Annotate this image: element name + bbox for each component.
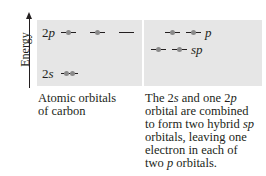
left-caption: Atomic orbitals of carbon	[38, 92, 116, 118]
electron-icon	[170, 30, 175, 35]
electron-icon	[66, 30, 71, 35]
electron-icon	[191, 30, 196, 35]
orbital-p-2	[186, 32, 201, 33]
orbital-p-1	[165, 32, 180, 33]
orbital-2s	[61, 73, 78, 74]
electron-icon	[64, 71, 69, 76]
electron-icon	[177, 47, 182, 52]
orbital-2p-1	[61, 32, 76, 33]
orbital-2p-3	[119, 32, 134, 33]
caption-text: two	[145, 156, 167, 170]
orbital-2p-2	[90, 32, 105, 33]
caption-text: to form two hybrid	[145, 117, 243, 131]
energy-axis-label: Energy	[18, 28, 33, 72]
caption-text: The 2	[145, 91, 174, 105]
hybrid-orbitals-panel: p sp	[144, 20, 262, 86]
caption-line: two p orbitals.	[145, 157, 254, 170]
caption-italic: p	[230, 91, 236, 105]
level-label-sp: sp	[191, 43, 203, 56]
atomic-orbitals-panel: 2p 2s	[37, 20, 142, 86]
right-caption: The 2s and one 2p orbital are combined t…	[145, 92, 254, 170]
orbital-sp-2	[172, 49, 187, 50]
electron-icon	[95, 30, 100, 35]
caption-text: orbitals.	[173, 156, 217, 170]
level-label-p: p	[205, 26, 212, 39]
caption-text: and one 2	[179, 91, 231, 105]
level-letter: s	[49, 66, 54, 81]
electron-icon	[70, 71, 75, 76]
level-label-2s: 2s	[42, 67, 54, 80]
level-letter: p	[49, 25, 56, 40]
level-label-2p: 2p	[42, 26, 55, 39]
electron-icon	[156, 47, 161, 52]
caption-italic: sp	[243, 117, 254, 131]
orbital-sp-1	[151, 49, 166, 50]
caption-line: of carbon	[38, 105, 116, 118]
